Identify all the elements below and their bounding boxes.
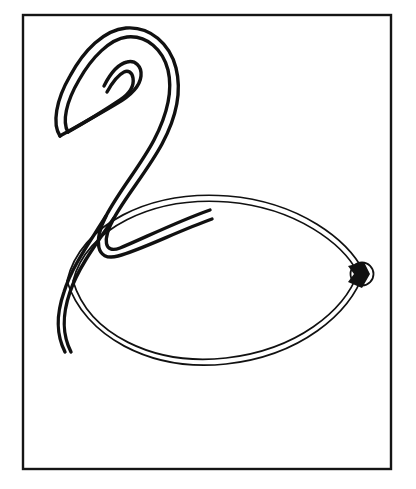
image-canvas	[0, 0, 416, 489]
swan-line-drawing	[0, 0, 416, 489]
page-background	[0, 0, 416, 489]
